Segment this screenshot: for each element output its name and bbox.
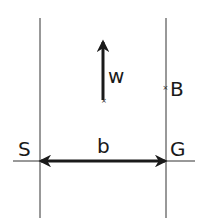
- point-b-x-mark: ×: [163, 84, 169, 92]
- diagram-canvas: × × w B S G b: [0, 0, 205, 221]
- point-b-label: B: [170, 77, 184, 101]
- right-point-label: G: [170, 137, 186, 161]
- width-label: b: [97, 134, 110, 158]
- weight-x-mark: ×: [101, 97, 107, 105]
- weight-label: w: [108, 64, 124, 88]
- left-point-label: S: [18, 137, 31, 161]
